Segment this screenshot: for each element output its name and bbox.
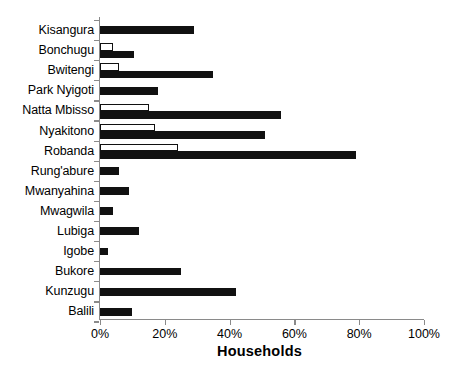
bar-black (100, 151, 356, 159)
y-axis-tick (94, 60, 99, 61)
bar-black (100, 207, 113, 215)
bar-black (100, 131, 265, 139)
y-axis-label: Mwanyahina (0, 184, 94, 198)
y-axis-tick (94, 40, 99, 41)
y-axis-tick (94, 80, 99, 81)
y-axis-label: Bonchugu (0, 43, 94, 57)
y-axis-tick (94, 201, 99, 202)
x-axis-tick-label: 100% (394, 327, 453, 341)
y-axis-label: Robanda (0, 144, 94, 158)
bar-black (100, 308, 132, 316)
x-axis-title: Households (0, 343, 453, 359)
y-axis-tick (94, 221, 99, 222)
bar-black (100, 187, 129, 195)
y-axis-tick (94, 301, 99, 302)
x-axis-line (99, 319, 424, 320)
x-axis-tick-label: 20% (135, 327, 195, 341)
y-axis-tick (94, 281, 99, 282)
y-axis-label: Lubiga (0, 224, 94, 238)
plot-area (100, 17, 424, 319)
y-axis-label: Natta Mbisso (0, 103, 94, 117)
y-axis-tick (94, 141, 99, 142)
bar-black (100, 227, 139, 235)
bar-black (100, 288, 236, 296)
bar-black (100, 26, 194, 34)
y-axis-label: Mwagwila (0, 204, 94, 218)
bar-black (100, 87, 158, 95)
y-axis-label: Kunzugu (0, 284, 94, 298)
y-axis-label: Bukore (0, 264, 94, 278)
y-axis-label: Bwitengi (0, 63, 94, 77)
x-axis-tick (424, 320, 425, 325)
x-axis-tick-label: 80% (329, 327, 389, 341)
y-axis-label: Rung'abure (0, 164, 94, 178)
bar-chart: KisanguraBonchuguBwitengiPark NyigotiNat… (0, 0, 453, 368)
y-axis-tick (94, 261, 99, 262)
y-axis-tick (94, 20, 99, 21)
x-axis-tick (294, 320, 295, 325)
y-axis-label: Nyakitono (0, 124, 94, 138)
bar-black (100, 111, 281, 119)
bar-black (100, 71, 213, 79)
y-axis-tick (94, 321, 99, 322)
bar-black (100, 248, 108, 256)
x-axis-tick (165, 320, 166, 325)
y-axis-tick (94, 120, 99, 121)
x-axis-tick-label: 40% (200, 327, 260, 341)
bar-black (100, 167, 119, 175)
y-axis-tick (94, 100, 99, 101)
x-axis-tick-label: 60% (264, 327, 324, 341)
y-axis-label: Park Nyigoti (0, 83, 94, 97)
y-axis-tick (94, 181, 99, 182)
bar-black (100, 268, 181, 276)
y-axis-label: Kisangura (0, 23, 94, 37)
x-axis-tick (359, 320, 360, 325)
y-axis-category-labels: KisanguraBonchuguBwitengiPark NyigotiNat… (0, 16, 94, 308)
y-axis-tick (94, 161, 99, 162)
bar-black (100, 51, 134, 59)
x-axis-tick (230, 320, 231, 325)
x-axis-tick (100, 320, 101, 325)
y-axis-tick (94, 241, 99, 242)
y-axis-label: Balili (0, 304, 94, 318)
y-axis-label: Igobe (0, 244, 94, 258)
x-axis-tick-label: 0% (70, 327, 130, 341)
